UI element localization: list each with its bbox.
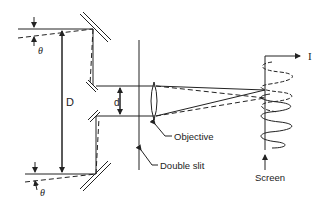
interferometer-diagram: D d θ θ I Objective Double slit Screen [0, 0, 325, 202]
angle-bottom-label: θ [40, 187, 45, 198]
baseline-label: D [66, 96, 74, 108]
screen-label: Screen [255, 172, 285, 183]
top-outer-mirror [80, 12, 111, 42]
bottom-dashed-beam [25, 174, 96, 182]
solid-fringes [261, 94, 292, 148]
separation-label: d [114, 97, 120, 108]
double-slit-label: Double slit [160, 160, 205, 171]
angle-top-label: θ [38, 45, 43, 56]
objective-label: Objective [174, 131, 214, 142]
top-dashed-beam [18, 29, 93, 38]
intensity-label: I [308, 50, 312, 62]
objective-lens [151, 82, 157, 120]
